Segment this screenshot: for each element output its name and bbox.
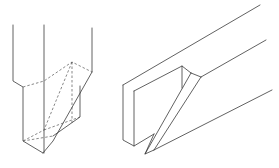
hidden-line-diagonal	[23, 62, 72, 141]
post-outline-left	[13, 25, 43, 153]
joint-drawing	[0, 0, 279, 168]
notch-top-cap	[191, 73, 201, 77]
cut-face-lower	[53, 86, 80, 136]
notch-diagonal-back	[154, 77, 201, 150]
left-post-figure	[13, 25, 92, 153]
notch-diagonal-front	[145, 73, 191, 154]
cut-face-diagonal	[43, 72, 92, 153]
beam-end-outline	[123, 85, 154, 146]
beam-middle-edge	[201, 40, 266, 77]
beam-bottom-edge	[154, 90, 272, 150]
hidden-line-bottom	[44, 117, 80, 130]
right-beam-figure	[123, 5, 272, 154]
hidden-line-top	[23, 62, 92, 87]
